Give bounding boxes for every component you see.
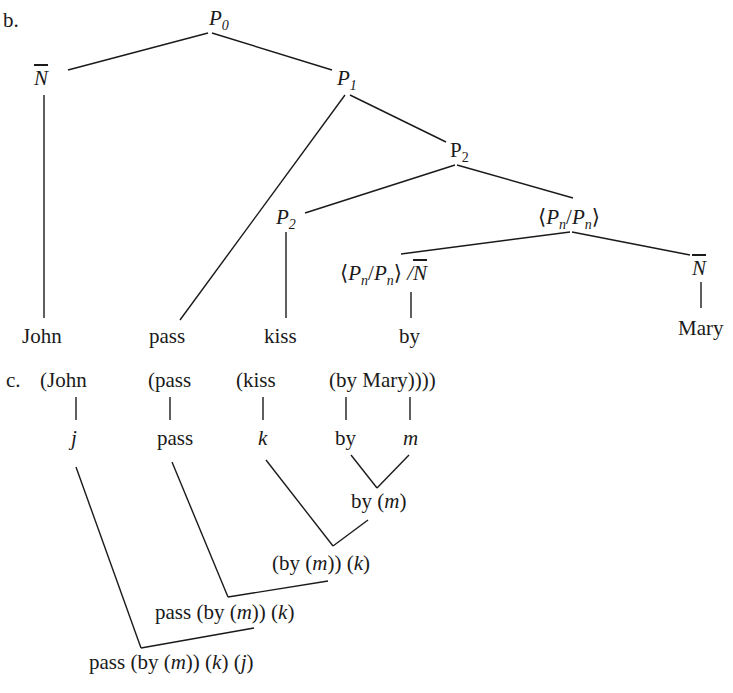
tree-edges: [0, 0, 733, 693]
leaf-john: John: [22, 326, 62, 347]
node-P2-upper: P2: [450, 140, 469, 161]
c-k: k: [258, 428, 267, 449]
c-by-translation: by: [335, 428, 356, 449]
c-j: j: [71, 428, 77, 449]
node-Nbar-right: N: [692, 258, 706, 279]
node-Pn-Pn: ⟨Pn/Pn⟩: [538, 207, 600, 228]
leaf-by: by: [399, 326, 420, 347]
c-kiss: (kiss: [236, 370, 276, 391]
step-pass-by-m-k: pass (by (m)) (k): [155, 602, 294, 623]
leaf-pass: pass: [149, 326, 185, 347]
leaf-mary: Mary: [678, 318, 724, 339]
part-c-label: c.: [6, 370, 21, 391]
leaf-kiss: kiss: [264, 326, 297, 347]
step-by-m-k: (by (m)) (k): [272, 553, 370, 574]
c-m: m: [403, 428, 418, 449]
node-Nbar-left: N: [34, 68, 48, 89]
node-P0: P0: [209, 8, 229, 29]
c-pass-translation: pass: [157, 428, 193, 449]
step-pass-by-m-k-j: pass (by (m)) (k) (j): [89, 652, 253, 673]
c-by-mary: (by Mary)))): [329, 370, 436, 391]
node-Pn-Pn-over-N: ⟨Pn/Pn⟩ /N: [340, 263, 427, 284]
node-P1: P1: [337, 68, 357, 89]
c-john: (John: [40, 370, 87, 391]
part-b-label: b.: [3, 10, 19, 31]
c-pass: (pass: [148, 370, 191, 391]
node-P2-lower: P2: [276, 207, 296, 228]
step-by-m: by (m): [351, 491, 406, 512]
